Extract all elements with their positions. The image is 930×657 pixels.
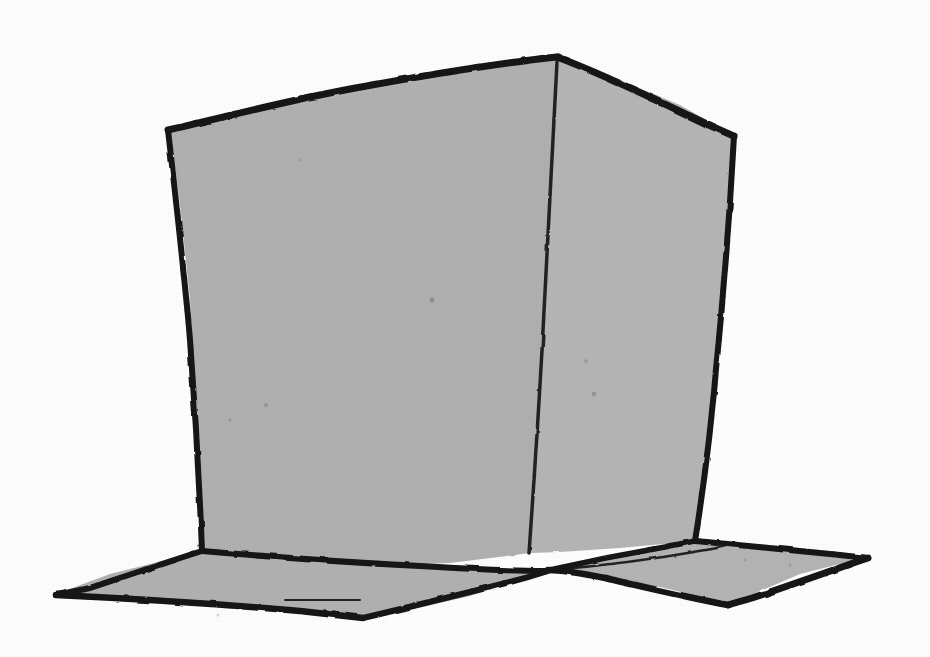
cube-drawing xyxy=(0,0,930,657)
paper-speckle xyxy=(592,392,596,396)
paper-speckle xyxy=(229,419,232,422)
paper-speckle xyxy=(744,559,747,562)
paper-speckle xyxy=(299,159,302,162)
paper-speckle xyxy=(789,564,792,567)
paper-speckle xyxy=(430,298,435,303)
paper-speckle xyxy=(264,403,268,407)
left-front-face xyxy=(170,57,557,567)
paper-speckle xyxy=(584,359,588,363)
sketch-canvas xyxy=(0,0,930,657)
paper-speckle xyxy=(216,613,219,616)
